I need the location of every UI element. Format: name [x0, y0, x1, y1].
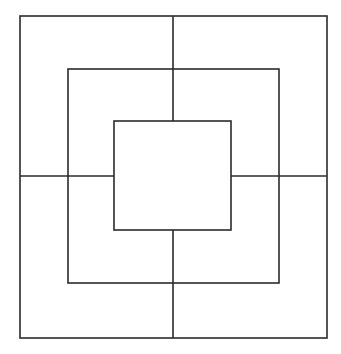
canvas-background: [0, 0, 341, 354]
diagram-canvas: [0, 0, 341, 354]
nested-squares-figure: [0, 0, 341, 354]
